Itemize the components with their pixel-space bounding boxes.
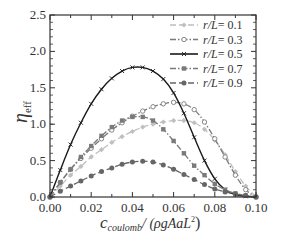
x-tick-label: 0.08 [203,200,226,215]
series-r-l-0-9 [48,159,259,200]
x-tick-labels: 0.000.020.040.060.080.10 [39,200,268,215]
legend-label: r/L= 0.1 [203,18,242,32]
x-axis-title: ccoulomb/ (ρgAaL2) [100,213,200,233]
legend-label: r/L= 0.5 [203,47,242,61]
legend-item: r/L= 0.5 [170,47,242,61]
series-r-l-0-3 [48,100,258,199]
y-tick-label: 2.5 [30,7,46,22]
x-tick-label: 0.10 [245,200,268,215]
y-tick-label: 2.0 [30,43,46,58]
y-tick-label: 1.0 [30,116,46,131]
legend-item: r/L= 0.7 [170,62,242,76]
legend-item: r/L= 0.3 [170,33,242,47]
legend-label: r/L= 0.7 [203,62,242,76]
legend-item: r/L= 0.9 [170,76,242,90]
legend-label: r/L= 0.3 [203,33,242,47]
y-tick-label: 1.5 [30,80,46,95]
y-tick-label: 0.5 [30,153,46,168]
legend-label: r/L= 0.9 [203,76,242,90]
legend-item: r/L= 0.1 [170,18,242,32]
y-axis-title: ηeff [9,101,33,123]
legend: r/L= 0.1r/L= 0.3r/L= 0.5r/L= 0.7r/L= 0.9 [170,18,242,90]
y-tick-label: 0.0 [30,189,46,204]
x-tick-label: 0.06 [162,200,185,215]
chart: 0.000.020.040.060.080.10 0.00.51.01.52.0… [0,0,281,243]
x-tick-label: 0.04 [121,200,144,215]
